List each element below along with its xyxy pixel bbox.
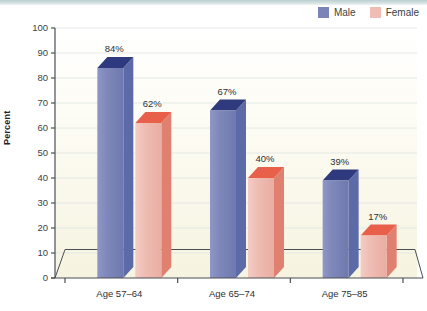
bar-front-face: [248, 178, 274, 278]
bar-chart-figure: Male Female Percent: [0, 0, 427, 311]
bar-value-label: 62%: [143, 98, 163, 109]
bar-front-face: [361, 236, 387, 279]
bar-side-face: [123, 57, 133, 278]
category-label: Age 65–74: [209, 288, 255, 299]
bar-value-label: 84%: [105, 43, 125, 54]
y-tick-label: 40: [37, 172, 48, 183]
y-tick-label: 50: [37, 147, 48, 158]
y-tick-label: 60: [37, 122, 48, 133]
y-tick-label: 10: [37, 247, 48, 258]
bar-front-face: [135, 123, 161, 278]
category-label: Age 75–85: [322, 288, 368, 299]
bar-side-face: [161, 112, 171, 278]
bar-side-face: [274, 167, 284, 278]
bar-value-label: 17%: [368, 211, 388, 222]
plot-canvas: 0102030405060708090100 84%62%67%40%39%17…: [0, 0, 427, 311]
y-tick-label: 100: [32, 22, 48, 33]
bar-side-face: [349, 170, 359, 279]
bar-front-face: [210, 111, 236, 279]
category-label: Age 57–64: [96, 288, 142, 299]
y-tick-label: 70: [37, 97, 48, 108]
y-tick-label: 90: [37, 47, 48, 58]
category-labels: Age 57–64Age 65–74Age 75–85: [96, 288, 367, 299]
bar-value-label: 39%: [330, 156, 350, 167]
bar-value-label: 67%: [217, 86, 237, 97]
x-axis: [51, 278, 423, 283]
bar-value-label: 40%: [255, 153, 275, 164]
y-axis-ticks: 0102030405060708090100: [32, 22, 55, 283]
bar-side-face: [236, 100, 246, 279]
y-tick-label: 80: [37, 72, 48, 83]
bar-front-face: [323, 181, 349, 279]
y-tick-label: 0: [43, 272, 48, 283]
y-tick-label: 20: [37, 222, 48, 233]
bar-front-face: [97, 68, 123, 278]
y-tick-label: 30: [37, 197, 48, 208]
